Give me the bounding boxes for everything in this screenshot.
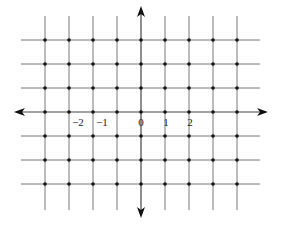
lattice-point bbox=[187, 134, 191, 138]
lattice-point bbox=[67, 158, 71, 162]
lattice-point bbox=[115, 158, 119, 162]
tick-label: −1 bbox=[96, 116, 108, 128]
lattice-point bbox=[235, 86, 239, 90]
lattice-point bbox=[235, 110, 239, 114]
tick-label: 2 bbox=[187, 116, 193, 128]
lattice-point bbox=[235, 62, 239, 66]
lattice-point bbox=[115, 86, 119, 90]
tick-label: −2 bbox=[72, 116, 84, 128]
lattice-point bbox=[115, 62, 119, 66]
lattice-point bbox=[235, 38, 239, 42]
lattice-point bbox=[163, 134, 167, 138]
lattice-point bbox=[43, 158, 47, 162]
lattice-point bbox=[67, 134, 71, 138]
lattice-point bbox=[187, 86, 191, 90]
lattice-point bbox=[139, 38, 143, 42]
lattice-point bbox=[91, 134, 95, 138]
lattice-point bbox=[67, 62, 71, 66]
lattice-point bbox=[187, 110, 191, 114]
lattice-point bbox=[211, 134, 215, 138]
lattice-point bbox=[139, 158, 143, 162]
lattice-point bbox=[163, 182, 167, 186]
lattice-point bbox=[115, 134, 119, 138]
tick-label: 0 bbox=[138, 116, 144, 128]
lattice-point bbox=[163, 110, 167, 114]
lattice-point bbox=[67, 182, 71, 186]
lattice-point bbox=[67, 38, 71, 42]
lattice-point bbox=[139, 110, 143, 114]
lattice-point bbox=[139, 134, 143, 138]
lattice-point bbox=[163, 86, 167, 90]
lattice-point bbox=[187, 38, 191, 42]
lattice-point bbox=[187, 182, 191, 186]
lattice-point bbox=[115, 182, 119, 186]
lattice-point bbox=[235, 134, 239, 138]
lattice-point bbox=[211, 62, 215, 66]
tick-labels: −2−1012 bbox=[72, 116, 193, 128]
lattice-point bbox=[43, 38, 47, 42]
lattice-point bbox=[163, 158, 167, 162]
lattice-point bbox=[235, 182, 239, 186]
lattice-point bbox=[115, 38, 119, 42]
lattice-point bbox=[211, 86, 215, 90]
lattice-point bbox=[91, 158, 95, 162]
lattice-point bbox=[139, 86, 143, 90]
lattice-point bbox=[115, 110, 119, 114]
lattice-point bbox=[91, 38, 95, 42]
lattice-point bbox=[67, 110, 71, 114]
tick-label: 1 bbox=[163, 116, 169, 128]
lattice-point bbox=[67, 86, 71, 90]
lattice-point bbox=[235, 158, 239, 162]
lattice-point bbox=[139, 182, 143, 186]
lattice-point bbox=[43, 182, 47, 186]
lattice-point bbox=[43, 110, 47, 114]
lattice-point bbox=[43, 62, 47, 66]
lattice-point bbox=[187, 158, 191, 162]
lattice-point bbox=[163, 38, 167, 42]
lattice-point bbox=[211, 182, 215, 186]
lattice-point bbox=[163, 62, 167, 66]
lattice-grid-diagram: −2−1012 bbox=[0, 0, 282, 227]
lattice-point bbox=[187, 62, 191, 66]
lattice-point bbox=[91, 86, 95, 90]
lattice-point bbox=[211, 110, 215, 114]
lattice-point bbox=[211, 158, 215, 162]
lattice-point bbox=[211, 38, 215, 42]
lattice-point bbox=[139, 62, 143, 66]
lattice-point bbox=[91, 62, 95, 66]
lattice-point bbox=[91, 182, 95, 186]
lattice-point bbox=[43, 86, 47, 90]
lattice-point bbox=[91, 110, 95, 114]
lattice-point bbox=[43, 134, 47, 138]
